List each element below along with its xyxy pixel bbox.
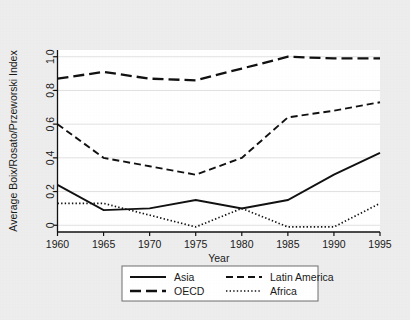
x-tick-label-5: 1985 xyxy=(276,238,300,250)
legend-label-oecd: OECD xyxy=(174,285,205,297)
x-tick-label-7: 1995 xyxy=(368,238,392,250)
x-tick-label-3: 1975 xyxy=(184,238,208,250)
x-axis-title: Year xyxy=(208,252,230,264)
y-tick-label-1: 0.2 xyxy=(44,184,56,199)
chart-canvas: 00.20.40.60.81.0196019651970197519801985… xyxy=(0,0,410,320)
x-tick-label-1: 1965 xyxy=(92,238,116,250)
legend-label-asia: Asia xyxy=(174,271,195,283)
y-tick-label-2: 0.4 xyxy=(44,150,56,165)
y-tick-label-5: 1.0 xyxy=(44,49,56,64)
y-axis-title: Average Boix/Rosato/Przeworski Index xyxy=(7,50,19,232)
x-tick-label-6: 1990 xyxy=(322,238,346,250)
chart-figure: 00.20.40.60.81.0196019651970197519801985… xyxy=(0,0,410,320)
x-tick-label-2: 1970 xyxy=(138,238,162,250)
y-tick-label-3: 0.6 xyxy=(44,117,56,132)
legend-label-africa: Africa xyxy=(270,285,297,297)
y-tick-label-0: 0 xyxy=(44,222,56,228)
x-tick-label-4: 1980 xyxy=(230,238,254,250)
y-tick-label-4: 0.8 xyxy=(44,83,56,98)
legend-label-latin-america: Latin America xyxy=(270,271,334,283)
x-tick-label-0: 1960 xyxy=(46,238,70,250)
